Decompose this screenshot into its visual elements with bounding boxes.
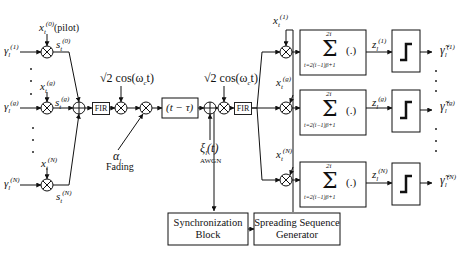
sum-arg-g: (.) xyxy=(346,105,356,116)
sum-lower-N: t=2(i−1)β+1 xyxy=(304,194,335,200)
output-label-g: γ̃l(g) xyxy=(440,100,455,115)
sum-lower-1: t=2(i−1)β+1 xyxy=(304,62,335,68)
delay-block: (t − τ) xyxy=(166,102,193,113)
ellipsis-dot xyxy=(32,139,34,141)
ellipsis-dot xyxy=(435,128,437,130)
product-label-g: st(g) xyxy=(55,96,69,111)
rx-code-label-1: xt(1) xyxy=(273,14,288,29)
sum-arg-1: (.) xyxy=(346,45,356,56)
fir-filter-rx: FIR xyxy=(234,102,252,115)
carrier-label-tx: √2 cos(ωct) xyxy=(100,72,154,87)
code-label-g: xt(g) xyxy=(40,80,55,95)
ellipsis-dot xyxy=(30,93,32,95)
fir-filter-tx: FIR xyxy=(92,102,110,115)
fading-label: Fading xyxy=(106,162,134,172)
pilot-code-label: xt(0)(pilot) xyxy=(39,21,79,36)
ellipsis-dot xyxy=(435,70,437,72)
ellipsis-dot xyxy=(435,150,437,152)
input-symbol-g: γl(g) xyxy=(4,100,18,115)
code-label-N: xt(N) xyxy=(41,157,57,172)
output-label-1: γ̃l(1) xyxy=(440,44,455,59)
ellipsis-dot xyxy=(32,151,34,153)
ellipsis-dot xyxy=(30,80,32,82)
input-symbol-1: γl(1) xyxy=(4,44,18,59)
noise-symbol: ξl(t) xyxy=(200,142,218,157)
carrier-label-rx: √2 cos(ωct) xyxy=(204,72,258,87)
decision-label-1: zl(1) xyxy=(372,38,386,53)
ellipsis-dot xyxy=(435,80,437,82)
product-label-N: st(N) xyxy=(56,190,72,205)
awgn-label: AWGN xyxy=(200,158,221,165)
rx-code-label-N: xt(N) xyxy=(276,148,292,163)
product-label-0: st(0) xyxy=(56,38,70,53)
input-symbol-N: γl(N) xyxy=(4,177,20,192)
ellipsis-dot xyxy=(435,140,437,142)
sum-arg-N: (.) xyxy=(346,177,356,188)
synchronization-block: Synchronization Block xyxy=(168,217,248,241)
sum-lower-g: t=2(i−1)β+1 xyxy=(304,122,335,128)
sum-icon: Σ xyxy=(322,98,338,120)
ellipsis-dot xyxy=(32,127,34,129)
decision-label-g: zl(g) xyxy=(372,96,386,111)
output-label-N: γ̃l(N) xyxy=(440,174,456,189)
sum-icon: Σ xyxy=(322,170,338,192)
rx-code-label-g: xt(g) xyxy=(276,76,291,91)
sum-icon: Σ xyxy=(322,38,338,60)
decision-label-N: zl(N) xyxy=(372,168,388,183)
spreading-sequence-generator: Spreading Sequence Generator xyxy=(254,217,340,241)
ellipsis-dot xyxy=(435,90,437,92)
ellipsis-dot xyxy=(30,68,32,70)
